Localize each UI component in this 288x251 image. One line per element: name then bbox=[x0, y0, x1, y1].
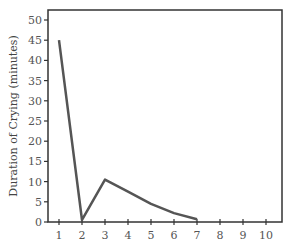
y-tick-label: 50 bbox=[28, 14, 42, 27]
x-tick-label: 3 bbox=[102, 229, 109, 242]
x-tick-label: 1 bbox=[56, 229, 63, 242]
data-line bbox=[59, 40, 197, 220]
y-tick-label: 40 bbox=[28, 54, 42, 67]
y-tick-label: 15 bbox=[28, 155, 42, 168]
x-tick-label: 8 bbox=[217, 229, 224, 242]
y-tick-label: 20 bbox=[28, 135, 42, 148]
y-tick-label: 25 bbox=[28, 115, 42, 128]
y-axis-title: Duration of Crying (minutes) bbox=[7, 35, 20, 196]
y-tick-label: 5 bbox=[35, 196, 42, 209]
y-tick-label: 0 bbox=[35, 216, 42, 229]
x-tick-label: 9 bbox=[240, 229, 247, 242]
y-tick-label: 30 bbox=[28, 95, 42, 108]
y-axis-ticks: 05101520253035404550 bbox=[28, 14, 48, 229]
y-tick-label: 10 bbox=[28, 176, 42, 189]
x-tick-label: 2 bbox=[79, 229, 86, 242]
y-tick-label: 35 bbox=[28, 75, 42, 88]
y-tick-label: 45 bbox=[28, 34, 42, 47]
x-tick-label: 7 bbox=[194, 229, 201, 242]
plot-frame bbox=[48, 10, 282, 222]
x-tick-label: 10 bbox=[259, 229, 273, 242]
x-tick-label: 5 bbox=[148, 229, 155, 242]
x-tick-label: 4 bbox=[125, 229, 132, 242]
x-tick-label: 6 bbox=[171, 229, 178, 242]
line-chart: 05101520253035404550 12345678910 Duratio… bbox=[0, 0, 288, 251]
